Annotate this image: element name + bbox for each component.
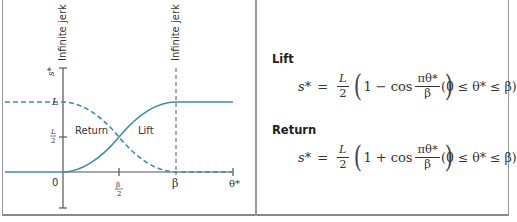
- cos-fn: cos: [391, 79, 413, 94]
- x-axis-label: θ*: [229, 178, 240, 189]
- arg-num: πθ*: [415, 143, 439, 157]
- label-infinite-jerk-left: Infinite jerk: [57, 4, 68, 61]
- label-L-half-num: L: [50, 128, 56, 136]
- label-L-half-den: 2: [51, 137, 55, 145]
- term-one: 1: [363, 150, 371, 165]
- lift-range: (0 ≤ θ* ≤ β): [441, 79, 517, 94]
- equals-sign: =: [317, 79, 328, 94]
- y-axis-label: s*: [46, 66, 56, 76]
- label-lift: Lift: [138, 125, 154, 136]
- equations-panel: Lift s* = L 2 ( 1 − cos πθ* β ) (0 ≤ θ* …: [258, 0, 508, 216]
- return-cos-argument: πθ* β: [415, 143, 439, 170]
- open-paren: (: [353, 71, 361, 101]
- lift-lhs: s*: [298, 79, 311, 94]
- arg-den: β: [424, 158, 431, 171]
- return-range: (0 ≤ θ* ≤ β): [441, 150, 517, 165]
- equals-sign: =: [317, 150, 328, 165]
- lift-curve: [5, 102, 233, 172]
- cam-displacement-diagram: L L 2 0 β 2 β θ* s* Infinite jerk Infini…: [0, 0, 256, 216]
- label-beta-half-den: 2: [117, 190, 121, 198]
- label-zero: 0: [52, 177, 58, 188]
- label-L: L: [51, 96, 59, 107]
- lift-coefficient: L 2: [337, 72, 349, 99]
- return-lhs: s*: [298, 150, 311, 165]
- label-return: Return: [75, 125, 108, 136]
- operator: −: [376, 79, 387, 94]
- arg-num: πθ*: [415, 72, 439, 86]
- lift-cos-argument: πθ* β: [415, 72, 439, 99]
- label-beta: β: [172, 177, 178, 190]
- operator: +: [376, 150, 387, 165]
- label-infinite-jerk-right: Infinite jerk: [170, 4, 181, 61]
- coef-den: 2: [339, 158, 346, 171]
- arg-den: β: [424, 87, 431, 100]
- label-beta-half-num: β: [116, 181, 120, 189]
- lift-equation-title: Lift: [272, 52, 294, 66]
- coef-den: 2: [339, 87, 346, 100]
- coef-num: L: [337, 72, 349, 86]
- cos-fn: cos: [391, 150, 413, 165]
- coef-num: L: [337, 143, 349, 157]
- return-coefficient: L 2: [337, 143, 349, 170]
- term-one: 1: [363, 79, 371, 94]
- lift-equation: s* = L 2 ( 1 − cos πθ* β ): [298, 64, 454, 108]
- open-paren: (: [353, 142, 361, 172]
- return-equation: s* = L 2 ( 1 + cos πθ* β ): [298, 135, 454, 179]
